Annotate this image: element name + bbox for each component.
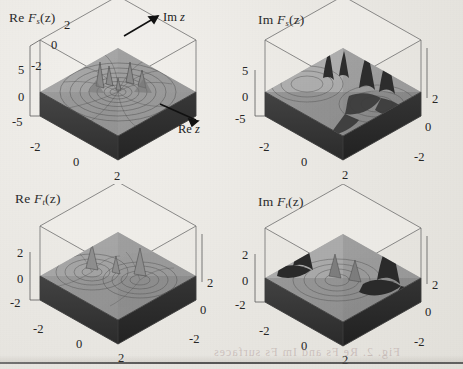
plot-panel-top-right: Im Fs(z) 5 0 -5 -2 0 2 2 0 -2: [231, 0, 463, 184]
panel-label-bottom-right: Im Ft(z): [258, 194, 304, 210]
tick-bottom-neg2: -2: [30, 140, 40, 155]
tick-right-neg2: -2: [414, 150, 424, 165]
tick-right-neg2: -2: [189, 332, 199, 347]
tick-vertical-neg2: -2: [235, 298, 245, 313]
tick-bottom-0: 0: [301, 339, 307, 354]
tick-bottom-0: 0: [76, 337, 82, 352]
tick-depth-0: 0: [51, 38, 57, 53]
tick-vertical-2: 2: [17, 246, 23, 261]
panel-label-top-right: Im Fs(z): [258, 12, 305, 28]
tick-bottom-0: 0: [301, 155, 307, 170]
tick-right-2: 2: [432, 92, 438, 107]
plot-panel-bottom-right: Im Ft(z) 2 0 -2 -2 0 2 2 0 -2: [231, 184, 463, 368]
surface-plot-bottom-right: [231, 184, 463, 369]
tick-right-0: 0: [425, 305, 431, 320]
page-bottom-rule: [0, 362, 463, 364]
tick-bottom-0: 0: [73, 155, 79, 170]
axis-arrow-label-im-z: Im z: [163, 10, 185, 25]
tick-right-0: 0: [200, 303, 206, 318]
plot-panel-top-left: Re Fs(z) 2 0 -2 5 0 -5 -2 0 2 Im z Re z: [0, 0, 232, 184]
tick-vertical-neg5: -5: [12, 115, 22, 130]
tick-right-2: 2: [432, 278, 438, 293]
plot-panel-bottom-left: Re Ft(z) 2 0 -2 -2 0 2 2 0 -2: [0, 184, 232, 368]
tick-bottom-neg2: -2: [259, 140, 269, 155]
surface-plot-top-left: [0, 0, 232, 184]
axis-arrow-label-re-z: Re z: [178, 122, 200, 137]
tick-bottom-2: 2: [114, 169, 120, 184]
panel-label-bottom-left: Re Ft(z): [15, 191, 61, 207]
tick-bottom-2: 2: [342, 168, 348, 183]
tick-vertical-5: 5: [18, 63, 24, 78]
tick-depth-2: 2: [64, 18, 70, 33]
tick-vertical-0: 0: [18, 90, 24, 105]
tick-vertical-neg2: -2: [10, 296, 20, 311]
tick-vertical-0: 0: [242, 90, 248, 105]
tick-vertical-neg5: -5: [235, 112, 245, 127]
tick-bottom-neg2: -2: [33, 322, 43, 337]
tick-right-2: 2: [207, 276, 213, 291]
tick-vertical-0: 0: [17, 272, 23, 287]
tick-right-0: 0: [425, 120, 431, 135]
tick-vertical-2: 2: [242, 248, 248, 263]
tick-vertical-5: 5: [242, 64, 248, 79]
tick-bottom-neg2: -2: [259, 324, 269, 339]
tick-vertical-0: 0: [242, 274, 248, 289]
panel-label-top-left: Re Fs(z): [9, 10, 56, 26]
tick-depth-neg2: -2: [31, 59, 41, 74]
tick-right-neg2: -2: [414, 335, 424, 350]
tick-bottom-2: 2: [342, 353, 348, 368]
figure-canvas: Re Fs(z) 2 0 -2 5 0 -5 -2 0 2 Im z Re z: [0, 0, 463, 369]
